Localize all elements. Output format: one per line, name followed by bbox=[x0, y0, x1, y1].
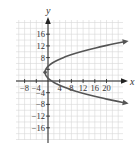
x-tick-label: 20 bbox=[102, 83, 111, 93]
y-tick-label: 8 bbox=[41, 53, 45, 63]
x-tick-label: 8 bbox=[69, 83, 73, 93]
vertex-point bbox=[43, 70, 47, 74]
parabola-curve bbox=[45, 42, 126, 103]
parabola-graph: −8−44812162016128−4−8−12−16 x y bbox=[0, 0, 137, 144]
y-tick-label: −12 bbox=[32, 111, 45, 121]
x-axis-label: x bbox=[129, 76, 135, 87]
y-tick-label: 16 bbox=[37, 29, 46, 39]
x-tick-label: −8 bbox=[20, 83, 29, 93]
x-tick-label: 12 bbox=[79, 83, 88, 93]
y-tick-label: −4 bbox=[36, 88, 46, 98]
y-tick-label: −16 bbox=[32, 123, 45, 133]
curve-arrowheads bbox=[122, 39, 128, 105]
y-tick-label: −8 bbox=[36, 99, 45, 109]
x-tick-label: 16 bbox=[91, 83, 100, 93]
y-tick-label: 12 bbox=[37, 41, 46, 51]
y-axis-label: y bbox=[45, 5, 51, 16]
